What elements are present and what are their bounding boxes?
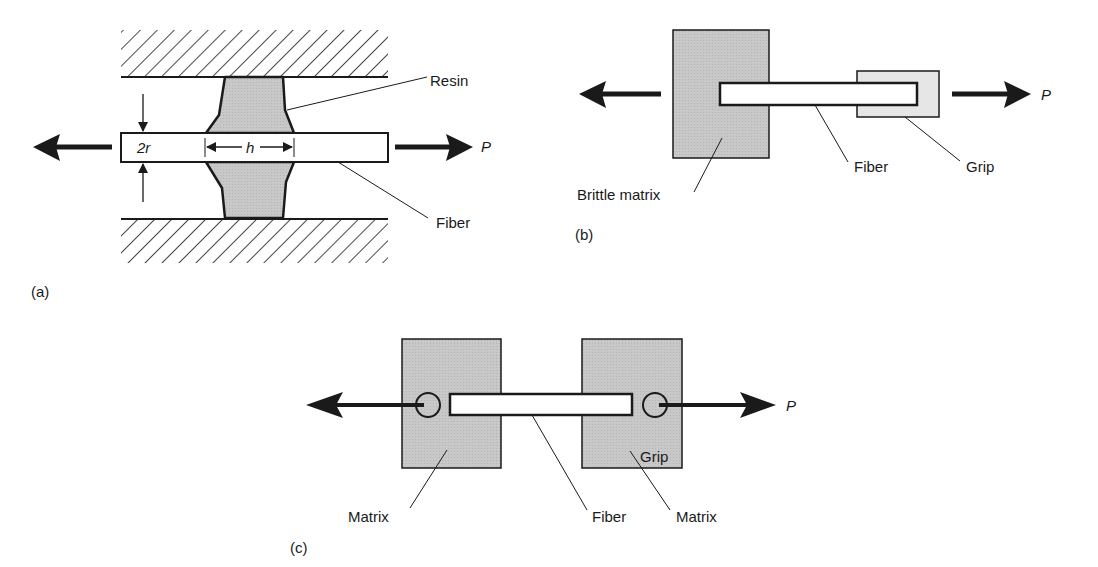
fiber-leader-c	[532, 415, 587, 510]
bottom-clamp-block	[121, 219, 388, 263]
panel-a-tag: (a)	[31, 283, 49, 300]
resin-bottom	[206, 162, 294, 218]
panel-c-tag: (c)	[290, 539, 308, 556]
panel-a: 2r h P Resin Fiber (a)	[31, 30, 491, 300]
fiber-leader-b	[815, 105, 848, 162]
fiber-label-a: Fiber	[436, 214, 470, 231]
fiber-leader-a	[338, 162, 428, 218]
load-arrow-right-icon-b	[1004, 81, 1031, 108]
fiber-label-c: Fiber	[592, 508, 626, 525]
fiber-b	[720, 83, 917, 105]
top-clamp-block	[121, 30, 388, 77]
resin-label: Resin	[430, 72, 468, 89]
diameter-label: 2r	[136, 139, 151, 156]
fiber-c	[450, 394, 632, 415]
grip-label-c: Grip	[640, 448, 668, 465]
load-label-c: P	[786, 397, 796, 414]
grip-label-b: Grip	[966, 158, 994, 175]
load-label-a: P	[481, 138, 491, 155]
load-arrow-left-icon-b	[579, 81, 606, 108]
load-arrow-left-icon	[33, 134, 60, 161]
grip-leader-b	[905, 117, 960, 161]
load-label-b: P	[1041, 86, 1051, 103]
length-label: h	[246, 139, 254, 156]
brittle-matrix-label: Brittle matrix	[577, 186, 661, 203]
resin-top	[206, 77, 294, 133]
load-arrow-right-icon	[446, 134, 473, 161]
fiber-a	[121, 133, 388, 162]
fiber-label-b: Fiber	[854, 158, 888, 175]
fiber-pullout-diagram: 2r h P Resin Fiber (a) P Fiber Grip	[0, 0, 1098, 567]
resin-leader	[287, 77, 427, 110]
panel-b: P Fiber Grip Brittle matrix (b)	[575, 30, 1051, 243]
left-matrix-label: Matrix	[348, 508, 389, 525]
panel-b-tag: (b)	[575, 226, 593, 243]
panel-c: P Grip Matrix Fiber Matrix (c)	[290, 339, 796, 556]
right-matrix-label: Matrix	[676, 508, 717, 525]
